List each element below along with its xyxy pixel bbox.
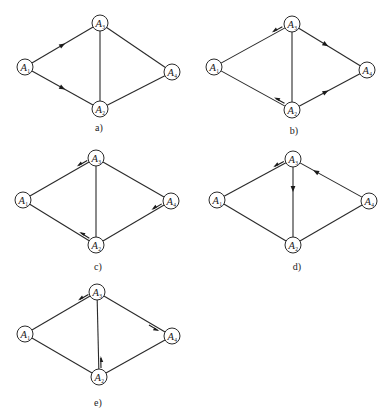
diagram-a-edges: [32, 27, 165, 105]
edge-e-3: [104, 296, 165, 332]
nodes-layer: A1A3A4A2A1A3A4A2A1A3A4A2A1A3A4A2A1A3A4A2: [15, 15, 377, 385]
edge-d-4: [300, 205, 362, 241]
node-subscript: 4: [371, 202, 374, 208]
node-subscript: 2: [102, 110, 105, 116]
edge-b-3: [299, 28, 360, 66]
node-c-A2: A2: [88, 237, 104, 253]
node-subscript: 3: [102, 24, 105, 30]
flow-arrow-icon: [322, 91, 328, 96]
node-c-A1: A1: [15, 192, 31, 208]
edge-e-2: [97, 300, 99, 369]
node-b-A3: A3: [284, 16, 300, 32]
caption-e: e): [94, 397, 102, 409]
node-a-A3: A3: [92, 15, 108, 31]
diagram-c-nodes: A1A3A4A2: [15, 150, 179, 253]
node-subscript: 4: [174, 337, 177, 343]
arrows-layer: [59, 27, 329, 368]
caption-b: b): [290, 125, 298, 137]
node-c-A3: A3: [88, 150, 104, 166]
diagram-b-arrows: [272, 27, 329, 104]
diagram-b-nodes: A1A3A4A2: [206, 16, 375, 118]
diagram-c-arrows: [77, 161, 162, 239]
caption-a: a): [95, 122, 103, 134]
diagram-c-edges: [30, 162, 164, 241]
edge-b-4: [299, 74, 360, 106]
node-subscript: 3: [295, 160, 298, 166]
node-d-A4: A4: [361, 193, 377, 209]
edge-a-4: [107, 76, 165, 106]
edge-b-1: [221, 71, 285, 106]
node-d-A1: A1: [209, 192, 225, 208]
flow-arrow-icon: [59, 43, 65, 48]
flow-diagrams-canvas: A1A3A4A2A1A3A4A2A1A3A4A2A1A3A4A2A1A3A4A2…: [0, 0, 390, 417]
node-subscript: 3: [98, 159, 101, 165]
node-subscript: 3: [294, 25, 297, 31]
node-c-A4: A4: [163, 193, 179, 209]
node-a-A4: A4: [164, 64, 180, 80]
flow-arrow-icon: [313, 170, 319, 175]
node-subscript: 1: [27, 68, 30, 74]
node-subscript: 3: [99, 293, 102, 299]
node-subscript: 1: [27, 335, 30, 341]
edge-c-4: [103, 205, 164, 241]
edge-c-0: [30, 162, 89, 196]
node-e-A4: A4: [164, 328, 180, 344]
node-a-A2: A2: [92, 101, 108, 117]
node-a-A1: A1: [17, 59, 33, 75]
edge-c-3: [103, 162, 164, 197]
node-b-A4: A4: [359, 62, 375, 78]
node-subscript: 1: [219, 201, 222, 207]
node-e-A3: A3: [89, 284, 105, 300]
edge-e-1: [32, 338, 92, 373]
edge-a-3: [107, 28, 166, 68]
node-e-A2: A2: [91, 369, 107, 385]
flow-arrow-icon: [100, 356, 103, 368]
edge-d-3: [300, 163, 362, 197]
node-d-A3: A3: [285, 151, 301, 167]
flow-arrow-icon: [322, 41, 328, 46]
captions-layer: a)b)c)d)e): [94, 122, 301, 409]
node-subscript: 1: [25, 201, 28, 207]
edges-layer: [30, 27, 362, 373]
node-subscript: 2: [294, 111, 297, 117]
edge-d-1: [224, 204, 286, 241]
edge-e-0: [32, 296, 90, 330]
caption-d: d): [293, 261, 301, 273]
edge-b-0: [221, 28, 285, 63]
edge-c-1: [30, 204, 89, 241]
node-d-A2: A2: [285, 237, 301, 253]
diagram-d-edges: [224, 163, 362, 241]
node-b-A1: A1: [206, 59, 222, 75]
diagram-e-arrows: [78, 294, 159, 367]
flow-arrow-icon: [291, 186, 296, 192]
node-subscript: 2: [98, 246, 101, 252]
node-subscript: 4: [369, 71, 372, 77]
node-subscript: 4: [174, 73, 177, 79]
diagram-b-edges: [221, 28, 360, 106]
edge-d-0: [224, 163, 286, 196]
node-e-A1: A1: [17, 326, 33, 342]
node-subscript: 1: [216, 68, 219, 74]
node-subscript: 4: [173, 202, 176, 208]
edge-e-4: [106, 340, 165, 373]
flow-arrow-icon: [59, 84, 65, 89]
diagram-e-edges: [32, 296, 165, 373]
node-subscript: 2: [295, 246, 298, 252]
diagram-a-arrows: [59, 43, 65, 89]
node-subscript: 2: [101, 378, 104, 384]
diagram-a-nodes: A1A3A4A2: [17, 15, 180, 117]
caption-c: c): [94, 261, 102, 273]
node-b-A2: A2: [284, 102, 300, 118]
network-flow-figure: A1A3A4A2A1A3A4A2A1A3A4A2A1A3A4A2A1A3A4A2…: [0, 0, 390, 417]
